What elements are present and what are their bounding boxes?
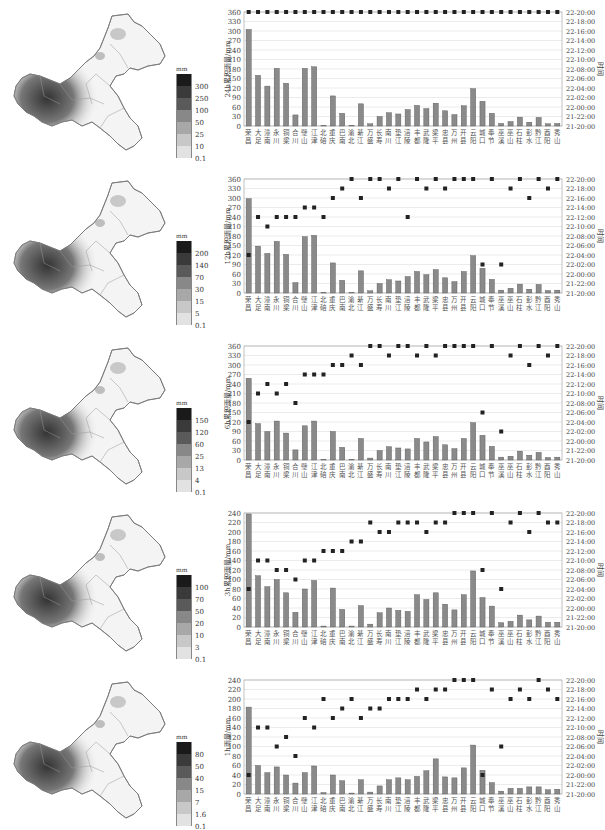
- svg-text:22-00:00: 22-00:00: [566, 271, 595, 279]
- svg-text:川: 川: [292, 304, 299, 312]
- svg-text:彭: 彭: [526, 629, 533, 638]
- svg-text:21-22:00: 21-22:00: [566, 280, 595, 288]
- svg-text:溪: 溪: [498, 637, 505, 646]
- svg-text:220: 220: [228, 519, 241, 527]
- svg-text:陵: 陵: [404, 303, 411, 312]
- svg-text:山: 山: [554, 470, 561, 479]
- svg-text:22-00:00: 22-00:00: [566, 104, 595, 112]
- svg-text:黔: 黔: [535, 462, 542, 471]
- svg-text:山: 山: [301, 470, 308, 479]
- svg-text:云: 云: [470, 463, 477, 471]
- svg-text:山: 山: [301, 804, 308, 813]
- legend-label: 5: [195, 311, 199, 318]
- svg-text:彭: 彭: [526, 128, 533, 137]
- svg-text:22-08:00: 22-08:00: [566, 66, 595, 74]
- svg-text:平: 平: [432, 638, 439, 646]
- svg-text:平: 平: [432, 471, 439, 479]
- svg-text:21-22:00: 21-22:00: [566, 614, 595, 622]
- svg-text:1h雨量/mm: 1h雨量/mm: [224, 717, 232, 756]
- svg-text:22-14:00: 22-14:00: [566, 538, 595, 546]
- svg-text:南: 南: [339, 637, 346, 646]
- svg-text:阳: 阳: [544, 637, 551, 646]
- svg-text:昌: 昌: [245, 638, 252, 646]
- svg-text:22-02:00: 22-02:00: [566, 428, 595, 436]
- svg-text:忠: 忠: [442, 463, 449, 471]
- svg-text:忠: 忠: [442, 129, 449, 137]
- legend-label: 60: [195, 442, 204, 449]
- svg-text:节: 节: [488, 805, 495, 813]
- svg-text:合: 合: [292, 629, 299, 638]
- svg-text:津: 津: [311, 638, 318, 646]
- svg-text:0: 0: [237, 290, 241, 298]
- svg-text:24h累积雨量/mm: 24h累积雨量/mm: [223, 40, 232, 97]
- svg-text:垫: 垫: [395, 462, 402, 471]
- svg-text:南: 南: [385, 295, 392, 304]
- svg-text:节: 节: [488, 304, 495, 312]
- legend-swatch: [176, 110, 192, 122]
- svg-text:万: 万: [451, 463, 458, 471]
- svg-text:22-12:00: 22-12:00: [566, 715, 595, 723]
- svg-text:江: 江: [357, 471, 364, 479]
- svg-text:奉: 奉: [488, 295, 495, 304]
- svg-text:22-14:00: 22-14:00: [566, 37, 595, 45]
- svg-text:巫: 巫: [507, 797, 514, 805]
- svg-text:丰: 丰: [414, 796, 421, 805]
- svg-text:川: 川: [385, 137, 392, 145]
- legend-swatch: [176, 134, 192, 146]
- svg-text:巫: 巫: [507, 296, 514, 304]
- svg-text:万: 万: [367, 296, 374, 304]
- svg-text:秀: 秀: [554, 295, 561, 304]
- svg-text:360: 360: [228, 343, 241, 351]
- svg-text:山: 山: [507, 136, 514, 145]
- svg-text:6h累积雨量/mm: 6h累积雨量/mm: [223, 376, 232, 429]
- svg-text:溪: 溪: [498, 136, 505, 145]
- svg-text:22-20:00: 22-20:00: [566, 176, 595, 184]
- svg-text:22-16:00: 22-16:00: [566, 696, 595, 704]
- svg-text:平: 平: [432, 304, 439, 312]
- svg-text:南: 南: [264, 470, 271, 479]
- svg-text:县: 县: [460, 137, 467, 145]
- svg-text:盛: 盛: [367, 637, 374, 646]
- svg-text:22-06:00: 22-06:00: [566, 409, 595, 417]
- legend-swatch: [176, 444, 192, 456]
- svg-text:阳: 阳: [470, 804, 477, 813]
- svg-text:彭: 彭: [526, 796, 533, 805]
- svg-text:21-22:00: 21-22:00: [566, 447, 595, 455]
- svg-text:水: 水: [526, 637, 533, 646]
- legend-label: 13: [195, 466, 204, 473]
- legend-swatch: [176, 647, 192, 659]
- svg-text:大: 大: [255, 796, 262, 805]
- svg-text:21-20:00: 21-20:00: [566, 290, 595, 298]
- svg-text:川: 川: [292, 471, 299, 479]
- svg-text:合: 合: [292, 128, 299, 137]
- svg-text:南: 南: [339, 303, 346, 312]
- svg-text:奉: 奉: [488, 128, 495, 137]
- svg-text:南: 南: [385, 128, 392, 137]
- svg-text:隆: 隆: [423, 136, 430, 145]
- svg-text:长: 长: [376, 295, 383, 304]
- bar-scatter-chart: 030609012015018021024027030033036021-20:…: [222, 4, 605, 170]
- svg-text:山: 山: [554, 303, 561, 312]
- svg-text:县: 县: [442, 471, 449, 479]
- svg-text:20: 20: [232, 781, 241, 789]
- svg-text:22-16:00: 22-16:00: [566, 529, 595, 537]
- svg-text:寿: 寿: [376, 637, 383, 646]
- svg-text:22-20:00: 22-20:00: [566, 677, 595, 685]
- svg-text:万: 万: [367, 129, 374, 137]
- svg-text:碚: 碚: [320, 804, 327, 813]
- svg-text:铜: 铜: [283, 295, 290, 304]
- svg-text:柱: 柱: [516, 303, 523, 312]
- svg-text:柱: 柱: [516, 470, 523, 479]
- svg-text:石: 石: [516, 129, 523, 137]
- svg-text:县: 县: [460, 805, 467, 813]
- svg-text:21-20:00: 21-20:00: [566, 624, 595, 632]
- svg-text:酉: 酉: [544, 797, 551, 805]
- svg-text:北: 北: [320, 630, 327, 638]
- svg-text:22-04:00: 22-04:00: [566, 252, 595, 260]
- svg-text:寿: 寿: [376, 804, 383, 813]
- svg-text:40: 40: [232, 605, 241, 613]
- svg-text:22-08:00: 22-08:00: [566, 233, 595, 241]
- legend-label: 200: [195, 251, 208, 258]
- svg-text:山: 山: [554, 136, 561, 145]
- svg-text:时间: 时间: [596, 730, 605, 744]
